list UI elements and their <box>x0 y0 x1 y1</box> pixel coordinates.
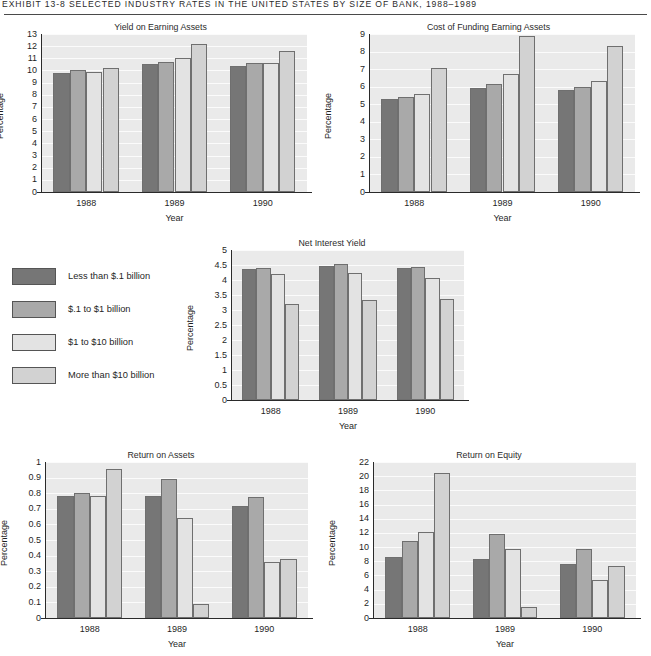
bar <box>521 607 537 618</box>
y-tick-label: 0.2 <box>8 582 41 591</box>
y-tick-label: 2.5 <box>194 321 227 330</box>
bar <box>440 299 454 400</box>
legend-item: $.1 to $1 billion <box>12 301 182 319</box>
bank-size-legend: Less than $.1 billion$.1 to $1 billion$1… <box>12 268 182 398</box>
bar <box>434 473 450 618</box>
bar <box>263 63 279 192</box>
gridline <box>42 34 307 35</box>
legend-item: More than $10 billion <box>12 367 182 385</box>
bar <box>106 469 122 618</box>
bar <box>607 46 623 192</box>
legend-label: $.1 to $1 billion <box>68 304 131 314</box>
bar <box>158 62 174 192</box>
bar <box>145 496 161 618</box>
y-tick-label: 5 <box>4 127 37 136</box>
bar <box>53 73 69 192</box>
y-tick-label: 8 <box>336 557 369 566</box>
exhibit-header: EXHIBIT 13-8 SELECTED INDUSTRY RATES IN … <box>0 0 651 15</box>
bar <box>591 81 607 192</box>
y-tick-label: 2 <box>332 152 365 161</box>
y-tick-label: 0.4 <box>8 551 41 560</box>
y-tick-label: 3 <box>194 306 227 315</box>
chart-return-on-assets: Return on Assets00.10.20.30.40.50.60.70.… <box>2 450 320 656</box>
legend-swatch-2 <box>12 301 56 318</box>
gridline <box>370 69 635 70</box>
legend-swatch-1 <box>12 268 56 285</box>
x-axis-title: Year <box>46 639 308 649</box>
bar <box>576 549 592 618</box>
x-axis-title: Year <box>370 213 635 223</box>
plot-background <box>374 462 636 618</box>
x-tick-label: 1988 <box>58 198 114 208</box>
gridline <box>374 519 636 520</box>
plot-background <box>42 34 307 192</box>
x-tick-label: 1990 <box>564 624 620 634</box>
x-tick-label: 1988 <box>62 624 118 634</box>
y-tick-label: 1 <box>332 170 365 179</box>
plot-background <box>370 34 635 192</box>
gridline <box>46 478 308 479</box>
y-tick-label: 2 <box>336 599 369 608</box>
y-axis-title: Percentage <box>323 93 333 139</box>
bar <box>334 264 348 401</box>
y-tick-label: 8 <box>332 47 365 56</box>
bar <box>57 496 73 618</box>
bar <box>86 72 102 192</box>
x-tick-label: 1989 <box>477 624 533 634</box>
plot-area <box>46 462 308 618</box>
y-tick-label: 9 <box>4 78 37 87</box>
x-axis-title: Year <box>374 639 636 649</box>
bar <box>431 68 447 192</box>
gridline <box>232 265 464 266</box>
bar <box>362 300 376 401</box>
y-tick-label: 10 <box>336 543 369 552</box>
y-tick-label: 4.5 <box>194 261 227 270</box>
x-axis-title: Year <box>232 421 464 431</box>
y-tick-label: 12 <box>4 42 37 51</box>
bar <box>271 274 285 400</box>
legend-item: $1 to $10 billion <box>12 334 182 352</box>
bar <box>264 562 280 618</box>
y-tick-label: 1.5 <box>194 351 227 360</box>
bar <box>385 557 401 618</box>
chart-title: Cost of Funding Earning Assets <box>330 22 647 32</box>
bar <box>230 66 246 192</box>
bar <box>161 479 177 618</box>
bar <box>519 36 535 192</box>
gridline <box>374 533 636 534</box>
gridline <box>374 476 636 477</box>
x-tick-label: 1989 <box>149 624 205 634</box>
y-axis-title: Percentage <box>0 93 5 139</box>
y-tick-label: 4 <box>336 585 369 594</box>
y-tick-label: 6 <box>336 571 369 580</box>
x-tick-label: 1989 <box>475 198 531 208</box>
plot-area <box>370 34 635 192</box>
plot-area <box>42 34 307 192</box>
legend-label: $1 to $10 billion <box>68 337 133 347</box>
y-tick-label: 2 <box>4 163 37 172</box>
plot-area <box>374 462 636 618</box>
y-tick-label: 22 <box>336 458 369 467</box>
chart-net-interest-yield: Net Interest Yield00.511.522.533.544.551… <box>188 238 476 444</box>
x-axis-line <box>365 192 640 193</box>
x-tick-label: 1990 <box>563 198 619 208</box>
y-tick-label: 0 <box>8 614 41 623</box>
y-tick-label: 0 <box>4 188 37 197</box>
y-tick-label: 9 <box>332 30 365 39</box>
y-tick-label: 0.6 <box>8 520 41 529</box>
y-tick-label: 0 <box>194 396 227 405</box>
y-tick-label: 8 <box>4 90 37 99</box>
x-axis-line <box>227 400 469 401</box>
y-tick-label: 3 <box>332 135 365 144</box>
y-tick-label: 0.5 <box>8 536 41 545</box>
gridline <box>374 462 636 463</box>
x-tick-label: 1989 <box>147 198 203 208</box>
bar <box>560 564 576 618</box>
bar <box>248 497 264 618</box>
bar <box>473 559 489 618</box>
y-tick-label: 14 <box>336 514 369 523</box>
bar <box>489 534 505 618</box>
y-tick-label: 12 <box>336 528 369 537</box>
y-tick-label: 3.5 <box>194 291 227 300</box>
x-tick-label: 1988 <box>386 198 442 208</box>
